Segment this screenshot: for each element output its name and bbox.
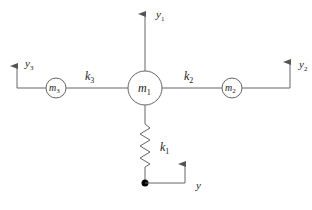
label-k1: k1 [160,140,169,156]
label-y: y [195,179,201,191]
mass-spring-diagram: m1 m3 m2 k3 k2 k1 y1 y3 y2 y [0,0,312,210]
label-y2: y2 [298,58,308,73]
spring-k1-icon [140,105,150,183]
label-y3: y3 [24,57,34,72]
label-k3: k3 [85,69,94,85]
label-y1: y1 [155,8,165,23]
label-k2: k2 [184,69,193,85]
